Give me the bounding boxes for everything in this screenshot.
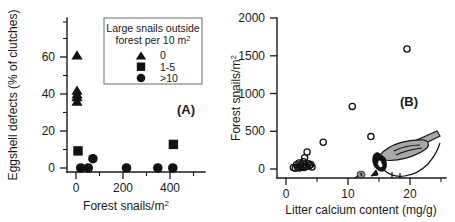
panel-a-label: (A) [177, 102, 195, 117]
panel-b-x-axis-title: Litter calcium content (mg/g) [285, 203, 436, 217]
figure-container: 0 20 40 60 0 200 400 Forest snails/m2 Eg… [0, 0, 455, 222]
figure-svg: 0 20 40 60 0 200 400 Forest snails/m2 Eg… [0, 0, 455, 222]
legend-marker-circle-icon [137, 74, 146, 83]
panel-b-y-axis-title: Forest snails/m2 [229, 55, 243, 141]
panel-a-x-ticks [76, 172, 194, 179]
data-point-circle [122, 163, 132, 173]
panel-a-ytick-0: 0 [48, 161, 55, 175]
panel-b-x-ticks [286, 178, 441, 185]
panel-b-y-axis-title-text: Forest snails/m [229, 60, 243, 141]
panel-a-series-square [73, 140, 178, 156]
panel-b-ytick-500: 500 [245, 124, 265, 138]
data-point-circle [153, 163, 163, 173]
panel-b: 0 500 1000 1500 2000 0 10 20 Litter calc… [229, 11, 446, 217]
legend-label-0: 0 [160, 49, 166, 61]
panel-a-ytick-20: 20 [42, 124, 56, 138]
data-point-circle [168, 163, 178, 173]
panel-a-ytick-40: 40 [42, 87, 56, 101]
panel-b-label: (B) [400, 94, 418, 109]
data-point-open-circle [304, 149, 310, 155]
data-point-triangle [71, 50, 82, 59]
panel-b-ytick-2000: 2000 [238, 11, 265, 25]
data-point-open-circle [320, 139, 326, 145]
panel-a-x-axis-title-text: Forest snails/m [83, 199, 164, 213]
panel-a-legend: Large snails outside forest per 10 m2 0 … [104, 18, 202, 84]
legend-title-sup: 2 [186, 34, 190, 43]
panel-b-y-axis-title-sup: 2 [229, 55, 238, 60]
data-point-square [73, 146, 82, 155]
legend-marker-square-icon [137, 63, 145, 71]
panel-a-xtick-0: 0 [73, 181, 80, 195]
panel-a-xtick-400: 400 [160, 181, 180, 195]
panel-b-xtick-20: 20 [403, 187, 417, 201]
panel-b-xtick-0: 0 [283, 187, 290, 201]
panel-a-x-axis-title: Forest snails/m2 [83, 199, 169, 213]
data-point-square [169, 140, 178, 149]
panel-a-xtick-200: 200 [113, 181, 133, 195]
panel-a: 0 20 40 60 0 200 400 Forest snails/m2 Eg… [6, 10, 205, 213]
panel-a-series-triangle [71, 50, 82, 106]
panel-a-y-axis-title: Eggshell defects (% of clutches) [6, 10, 20, 181]
legend-title-line2-text: forest per 10 m [116, 34, 187, 46]
panel-b-xtick-10: 10 [341, 187, 355, 201]
data-point-open-circle [349, 103, 355, 109]
panel-b-ytick-0: 0 [258, 162, 265, 176]
legend-title-line2: forest per 10 m2 [116, 34, 191, 47]
panel-b-y-ticks [270, 18, 277, 169]
legend-title-line1: Large snails outside [106, 22, 200, 34]
data-point-open-circle [368, 134, 374, 140]
legend-label-gt10: >10 [160, 72, 178, 84]
panel-a-series-circle [76, 154, 178, 173]
panel-a-y-ticks [60, 22, 67, 168]
data-point-open-circle [404, 46, 410, 52]
data-point-circle [88, 154, 98, 164]
panel-a-x-axis-title-sup: 2 [164, 199, 169, 208]
panel-a-ytick-60: 60 [42, 50, 56, 64]
data-point-circle [83, 163, 93, 173]
